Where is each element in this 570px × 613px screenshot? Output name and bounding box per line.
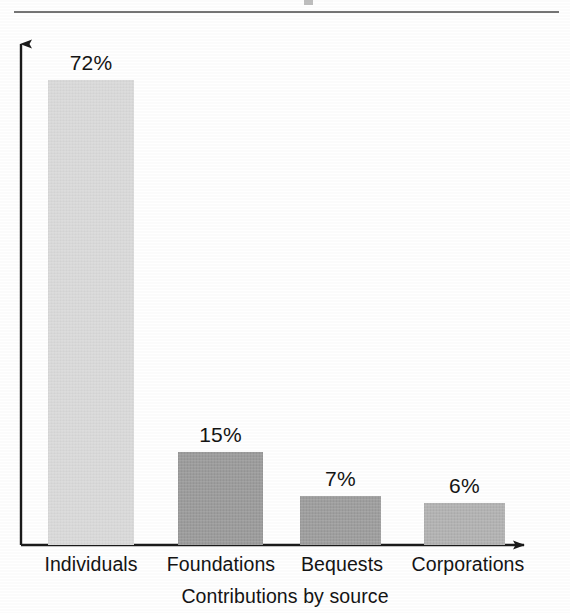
bar-bequests bbox=[300, 496, 381, 545]
bar-texture bbox=[178, 452, 263, 545]
value-label-foundations: 15% bbox=[178, 424, 263, 445]
bar-texture bbox=[300, 496, 381, 545]
bar-individuals bbox=[48, 80, 134, 545]
value-label-bequests: 7% bbox=[300, 468, 381, 489]
category-label-foundations: Foundations bbox=[156, 553, 286, 575]
bar-chart: 72% 15% 7% 6% Individuals Foundations Be… bbox=[0, 0, 570, 613]
bar-corporations bbox=[424, 503, 505, 545]
figure-container: 72% 15% 7% 6% Individuals Foundations Be… bbox=[0, 0, 570, 613]
category-label-bequests: Bequests bbox=[283, 553, 401, 575]
category-label-corporations: Corporations bbox=[398, 553, 538, 575]
value-label-corporations: 6% bbox=[424, 475, 505, 496]
chart-caption: Contributions by source bbox=[0, 585, 570, 607]
value-label-individuals: 72% bbox=[48, 52, 134, 73]
bar-texture bbox=[48, 80, 134, 545]
bar-foundations bbox=[178, 452, 263, 545]
bar-texture bbox=[424, 503, 505, 545]
category-label-individuals: Individuals bbox=[26, 553, 156, 575]
